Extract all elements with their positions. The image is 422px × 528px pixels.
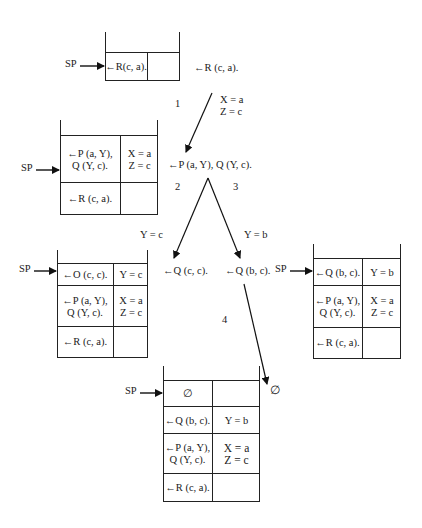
stack-2: ←P (a, Y), Q (Y, c). X = a Z = c ←R (c, … (60, 120, 158, 214)
step-number-1: 1 (175, 98, 180, 110)
stack-row: ←R (c, a). (163, 473, 260, 502)
goal-cell: ←R (c, a). (313, 328, 363, 358)
stack-3: ←O (c, c). Y = c ←P (a, Y), Q (Y, c). X … (57, 250, 148, 357)
binding-cell: Y = b (213, 407, 260, 434)
branch-left-goal: ←Q (c, c). (163, 265, 208, 277)
binding-cell (363, 328, 401, 358)
goal-cell: ←P (a, Y), Q (Y, c). (57, 286, 114, 327)
binding-line: X = a (119, 295, 142, 307)
binding-cell: X = a Z = c (363, 286, 401, 328)
sp-label-stack-2: SP (21, 162, 33, 173)
goal-cell: ←R (c, a). (57, 327, 114, 357)
goal-line: ←P (a, Y), (315, 295, 360, 307)
stack-1: ←R(c, a). (105, 32, 180, 80)
goal-line: Q (Y, c). (67, 307, 103, 319)
node-2-goal: ←P (a, Y), Q (Y, c). (168, 159, 252, 171)
stack-row: ←O (c, c). Y = c (57, 263, 148, 286)
binding-line: X = a (370, 295, 393, 307)
stack-row: ←P (a, Y), Q (Y, c). X = a Z = c (57, 285, 148, 327)
goal-line: ←P (a, Y), (62, 295, 107, 307)
sp-label-stack-5: SP (125, 385, 137, 396)
step-number-3: 3 (233, 181, 238, 193)
step-1-binding-x: X = a (220, 94, 243, 106)
stack-row: ←P (a, Y), Q (Y, c). X = a Z = c (313, 285, 401, 328)
binding-cell: X = a Z = c (121, 136, 158, 183)
goal-line: Q (Y, c). (320, 307, 356, 319)
goal-cell: ∅ (163, 381, 213, 407)
goal-cell: ←P (a, Y), Q (Y, c). (60, 136, 121, 183)
goal-cell: ←R(c, a). (105, 53, 148, 80)
step-number-2: 2 (175, 181, 180, 193)
stack-4: ←Q (b, c). Y = b ←P (a, Y), Q (Y, c). X … (313, 244, 401, 358)
goal-line: ←P (a, Y), (165, 442, 210, 454)
stack-row: ←Q (b, c). Y = b (163, 406, 260, 434)
goal-line: Q (Y, c). (72, 160, 108, 172)
stack-row: ←R (c, a). (57, 326, 148, 358)
binding-line: Z = c (371, 307, 393, 319)
step-1-binding-z: Z = c (220, 106, 242, 118)
goal-cell: ←R (c, a). (60, 183, 121, 214)
stack-5: ∅ ←Q (b, c). Y = b ←P (a, Y), Q (Y, c). … (163, 366, 260, 501)
sp-label-stack-4: SP (275, 263, 287, 274)
sp-label-stack-1: SP (65, 58, 77, 69)
binding-cell (114, 327, 148, 357)
stack-row: ∅ (163, 380, 260, 407)
step-number-4: 4 (222, 314, 227, 326)
binding-line: Z = c (224, 454, 248, 466)
binding-line: X = a (128, 148, 151, 160)
sp-label-stack-3: SP (19, 263, 31, 274)
stack-row: ←P (a, Y), Q (Y, c). X = a Z = c (163, 433, 260, 474)
goal-cell: ←O (c, c). (57, 264, 114, 286)
root-goal: ←R (c, a). (194, 62, 238, 74)
binding-cell: Y = c (114, 264, 148, 286)
goal-cell: ←Q (b, c). (313, 259, 363, 286)
goal-line: Q (Y, c). (170, 454, 206, 466)
goal-line: ←P (a, Y), (67, 148, 112, 160)
stack-row: ←P (a, Y), Q (Y, c). X = a Z = c (60, 135, 158, 183)
binding-cell: X = a Z = c (114, 286, 148, 327)
binding-cell (148, 53, 180, 80)
stack-row: ←R (c, a). (313, 327, 401, 359)
branch-left-binding: Y = c (140, 229, 163, 241)
binding-cell: Y = b (363, 259, 401, 286)
stack-row: ←R (c, a). (60, 182, 158, 215)
binding-line: Z = c (128, 160, 150, 172)
empty-clause-result: ∅ (270, 384, 280, 396)
binding-cell (213, 474, 260, 501)
goal-cell: ←R (c, a). (163, 474, 213, 501)
binding-line: Z = c (120, 307, 142, 319)
binding-cell (213, 381, 260, 407)
binding-line: X = a (224, 442, 250, 454)
stack-row: ←R(c, a). (105, 52, 180, 81)
branch-right-binding: Y = b (244, 229, 268, 241)
arrow-step-1 (186, 93, 212, 152)
stack-row: ←Q (b, c). Y = b (313, 258, 401, 286)
binding-cell: X = a Z = c (213, 434, 260, 474)
goal-cell: ←P (a, Y), Q (Y, c). (163, 434, 213, 474)
binding-cell (121, 183, 158, 214)
goal-cell: ←P (a, Y), Q (Y, c). (313, 286, 363, 328)
branch-right-goal: ←Q (b, c). (225, 265, 271, 277)
goal-cell: ←Q (b, c). (163, 407, 213, 434)
